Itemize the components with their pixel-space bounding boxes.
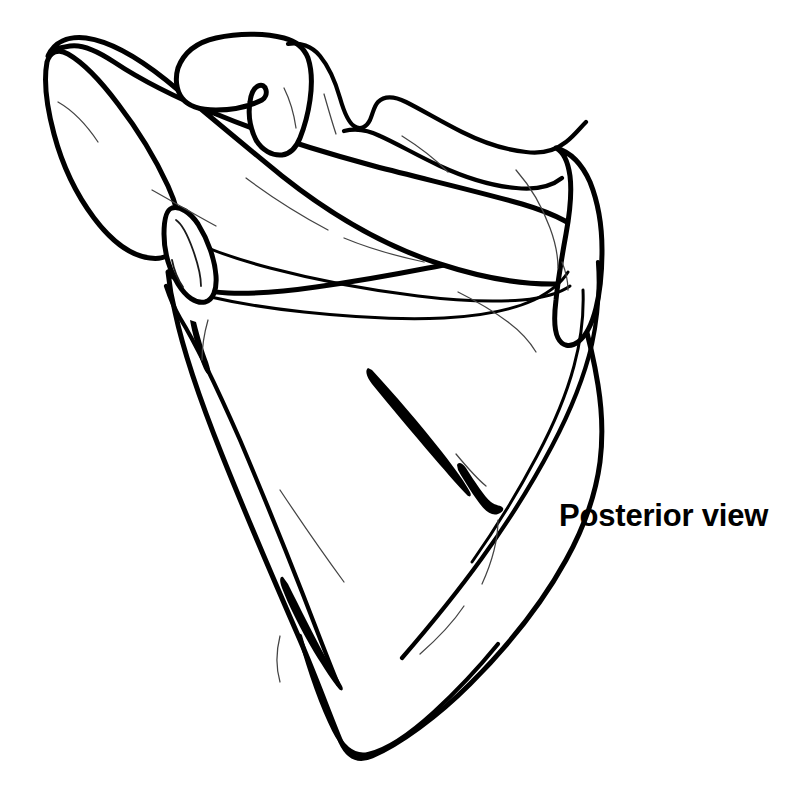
figure-canvas: Posterior view	[0, 0, 806, 803]
view-label: Posterior view	[559, 500, 768, 531]
scapula-line-drawing	[0, 0, 806, 803]
